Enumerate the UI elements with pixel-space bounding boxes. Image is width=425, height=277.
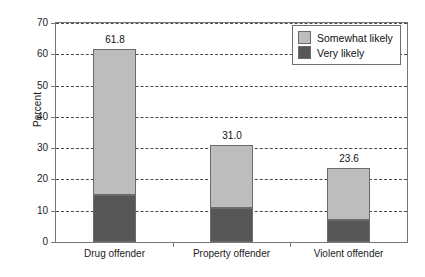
gridline bbox=[56, 23, 407, 24]
y-tick-label: 50 bbox=[18, 81, 48, 91]
bar-segment-somewhat-likely bbox=[327, 168, 370, 220]
y-tick-mark bbox=[51, 179, 56, 180]
bar-property-offender bbox=[210, 145, 253, 242]
y-tick-mark bbox=[51, 23, 56, 24]
legend-item: Very likely bbox=[298, 45, 393, 60]
y-tick-label: 0 bbox=[18, 237, 48, 247]
y-tick-mark bbox=[51, 86, 56, 87]
bar-segment-somewhat-likely bbox=[93, 49, 136, 195]
y-tick-label: 30 bbox=[18, 143, 48, 153]
x-tick-mark bbox=[290, 242, 291, 247]
bar-segment-somewhat-likely bbox=[210, 145, 253, 208]
y-tick-mark bbox=[51, 148, 56, 149]
y-tick-label: 20 bbox=[18, 174, 48, 184]
bar-value-label: 31.0 bbox=[202, 130, 262, 141]
bar-violent-offender bbox=[327, 168, 370, 242]
chart-legend: Somewhat likely Very likely bbox=[292, 25, 401, 65]
legend-label-very-likely: Very likely bbox=[317, 47, 364, 59]
y-tick-mark bbox=[51, 117, 56, 118]
legend-item: Somewhat likely bbox=[298, 30, 393, 45]
y-tick-mark bbox=[51, 211, 56, 212]
bar-value-label: 23.6 bbox=[319, 153, 379, 164]
x-category-label: Drug offender bbox=[55, 248, 175, 259]
bar-drug-offender bbox=[93, 49, 136, 242]
x-tick-mark bbox=[173, 242, 174, 247]
y-tick-mark bbox=[51, 54, 56, 55]
y-tick-label: 70 bbox=[18, 18, 48, 28]
stacked-bar-chart: Percent 01020304050607061.8Drug offender… bbox=[0, 0, 425, 277]
x-category-label: Property offender bbox=[172, 248, 292, 259]
bar-segment-very-likely bbox=[327, 220, 370, 242]
bar-segment-very-likely bbox=[210, 208, 253, 242]
legend-swatch-somewhat-likely bbox=[298, 31, 311, 44]
bar-segment-very-likely bbox=[93, 195, 136, 242]
legend-label-somewhat-likely: Somewhat likely bbox=[317, 32, 393, 44]
y-tick-label: 60 bbox=[18, 49, 48, 59]
x-category-label: Violent offender bbox=[289, 248, 409, 259]
y-tick-label: 40 bbox=[18, 112, 48, 122]
legend-swatch-very-likely bbox=[298, 46, 311, 59]
bar-value-label: 61.8 bbox=[85, 34, 145, 45]
y-tick-label: 10 bbox=[18, 206, 48, 216]
y-tick-mark bbox=[51, 242, 56, 243]
